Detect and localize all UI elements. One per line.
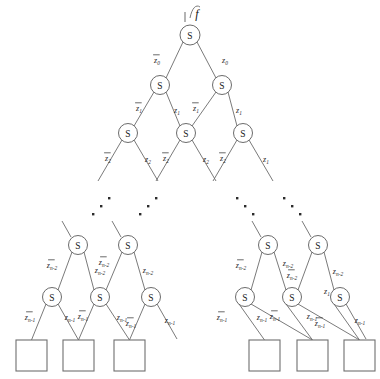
terminal-box [344,340,375,371]
terminal-box [297,340,328,371]
edge-label: z1 [192,103,199,114]
terminal-box [249,340,280,371]
edge-label-text: zn-2 [286,271,298,281]
edge-label: zn-1 [164,316,176,326]
edge-label-text: zn-1 [256,313,268,323]
ellipsis-dot [155,197,157,199]
tree-edge [298,252,312,290]
function-label-layer: f [185,6,200,22]
ellipsis-dot [252,213,254,215]
node-symbol: S [337,293,342,303]
edge-label: zn-2 [282,259,294,269]
edge-label-text: z1 [262,155,269,165]
node-symbol: S [148,293,153,303]
edge-label: z2 [202,155,209,165]
edge-labels-layer: z0z0z1z1z1z1z2z2z2z2z2z1zn-2zn-2zn-2zn-2… [24,55,366,329]
terminal-nodes-layer [16,340,375,371]
edge-label: z2 [104,153,111,164]
node-symbol: S [183,129,188,139]
node-symbol: S [187,31,192,41]
edge-label-text: zn-2 [235,261,247,271]
edge-label: z2 [144,155,151,165]
edge-label-text: zn-2 [142,266,154,276]
edge-label: z0 [221,56,228,66]
terminal-node [16,340,47,371]
terminal-node [63,340,94,371]
edge-label: zn-1 [256,313,268,323]
terminal-box [63,340,94,371]
decision-node: S [331,288,350,307]
edge-label: z1 [135,103,142,114]
decision-node: S [119,124,138,143]
ellipsis-dot [299,213,301,215]
edge-label-text: z1 [323,287,330,297]
tree-edge [166,42,183,78]
decision-node: S [91,288,110,307]
ellipsis-dot [236,197,238,199]
edge-label-text: z2 [219,154,226,164]
cluster-stub-edge [62,221,71,237]
terminal-node [344,340,375,371]
edge-label-text: zn-1 [24,313,36,323]
edge-label-text: z2 [144,155,151,165]
edge-label-text: z1 [173,106,180,116]
edge-label: zn-1 [77,311,89,322]
decision-node: S [259,236,278,255]
cluster-stub-edge [302,221,311,237]
tree-canvas: SSSSSSSSSSSSSSSS z0z0z1z1z1z1z2z2z2z2z2z… [0,0,380,379]
edge-label-text: zn-1 [314,319,326,329]
node-symbol: S [242,293,247,303]
edge-label-text: zn-1 [354,316,366,326]
node-symbol: S [97,293,102,303]
node-symbol: S [219,81,224,91]
terminal-box [114,340,145,371]
edge-label: zn-1 [269,311,281,322]
edge-label-text: z1 [135,104,142,114]
ellipsis-dot [283,197,285,199]
ellipsis-dot [147,205,149,207]
edge-label: zn-2 [142,266,154,276]
edge-label: z2 [162,153,169,164]
terminal-node [297,340,328,371]
edge-label: z1 [262,155,269,165]
ellipsis-dot [100,205,102,207]
ellipsis-dot [291,205,293,207]
node-symbol: S [265,241,270,251]
terminal-node [249,340,280,371]
node-symbol: S [125,129,130,139]
edge-label: zn-2 [98,257,110,268]
edge-label-text: zn-1 [125,319,137,329]
edge-label: zn-2 [332,267,344,277]
tree-edge [58,252,72,290]
edge-label: z1 [323,287,330,297]
tree-edge [286,304,313,340]
decision-node: S [119,236,138,255]
decision-node: S [151,76,170,95]
decision-node: S [236,288,255,307]
decision-node: S [309,236,328,255]
decision-tree-diagram: SSSSSSSSSSSSSSSS z0z0z1z1z1z1z2z2z2z2z2z… [0,0,380,379]
decision-node: S [234,124,253,143]
edge-label: zn-1 [216,312,228,323]
edge-label: z0 [153,55,160,66]
edge-label-text: z0 [221,56,228,66]
edge-label: zn-2 [235,260,247,271]
ellipsis-dot [92,213,94,215]
edge-label: zn-1 [24,312,36,323]
terminal-box [16,340,47,371]
decision-nodes-layer: SSSSSSSSSSSSSSSS [43,25,350,307]
tree-edge [251,252,262,290]
edge-label-text: z2 [104,154,111,164]
edge-label-text: zn-1 [269,312,281,322]
tree-edge [84,252,94,290]
edge-label: z2 [219,153,226,164]
edge-label: z1 [235,106,242,116]
tree-edge [79,304,95,340]
edges-layer [32,42,367,340]
ellipsis-dot [139,213,141,215]
edge-label: zn-2 [46,260,58,271]
edge-label-text: z2 [162,154,169,164]
tree-edge [197,42,216,78]
node-symbol: S [315,241,320,251]
node-symbol: S [157,81,162,91]
